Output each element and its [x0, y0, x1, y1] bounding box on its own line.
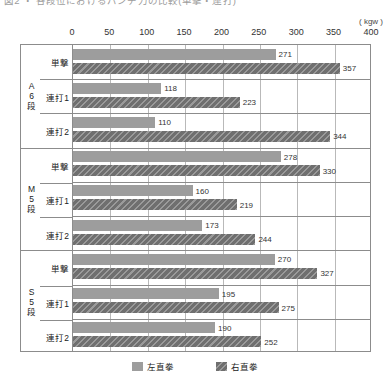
x-tick-400: 400: [363, 27, 378, 37]
group-row-labels: 単撃連打1連打2: [40, 45, 72, 148]
bar-right-2-1: [73, 302, 279, 313]
x-tick-300: 300: [289, 27, 304, 37]
x-tick-350: 350: [326, 27, 341, 37]
bar-value-right-2-1: 275: [282, 303, 295, 312]
x-tick-0: 0: [69, 27, 74, 37]
chart-legend: 左直拳右直拳: [0, 360, 389, 372]
bar-value-left-2-0: 270: [278, 255, 291, 264]
bar-left-2-1: [73, 288, 219, 299]
x-tick-200: 200: [214, 27, 229, 37]
bar-pair-1-2: 173244: [73, 216, 370, 250]
legend-swatch-right: [216, 362, 227, 371]
legend-item-right: 右直拳: [216, 360, 258, 372]
bar-value-left-0-2: 110: [158, 118, 171, 127]
bar-value-right-1-1: 219: [240, 200, 253, 209]
row-label-1-1: 連打1: [40, 183, 72, 217]
row-label-1-2: 連打2: [40, 217, 72, 251]
bar-left-0-0: [73, 49, 276, 60]
row-label-2-1: 連打1: [40, 286, 72, 320]
bar-right-0-1: [73, 97, 240, 108]
group-name-char: 5: [29, 297, 34, 307]
group-name-char: 6: [29, 91, 34, 101]
group-name-char: A: [29, 81, 35, 91]
bar-value-left-1-2: 173: [205, 221, 218, 230]
bar-pair-1-0: 278330: [73, 148, 370, 182]
group-row-labels: 単撃連打1連打2: [40, 149, 72, 251]
bar-value-left-2-1: 195: [222, 289, 235, 298]
legend-swatch-left: [132, 362, 143, 371]
row-label-2-0: 単撃: [40, 251, 72, 285]
bar-pair-2-1: 195275: [73, 285, 370, 319]
row-label-0-2: 連打2: [40, 113, 72, 147]
bar-value-left-1-1: 160: [196, 186, 209, 195]
group-block-2: S5段単撃連打1連打2: [21, 250, 72, 353]
bar-left-2-0: [73, 254, 275, 265]
group-name-char: 段: [27, 307, 36, 317]
bar-pair-2-2: 190252: [73, 319, 370, 353]
legend-label: 左直拳: [147, 360, 174, 372]
bar-value-left-2-2: 190: [218, 323, 231, 332]
bar-left-0-1: [73, 83, 161, 94]
bar-left-2-2: [73, 322, 215, 333]
bar-value-right-0-2: 344: [333, 132, 346, 141]
row-label-0-1: 連打1: [40, 79, 72, 113]
bar-pair-2-0: 270327: [73, 250, 370, 284]
bar-right-1-2: [73, 234, 255, 245]
bar-value-right-0-0: 357: [343, 64, 356, 73]
bar-right-2-2: [73, 336, 261, 347]
group-row-labels: 単撃連打1連打2: [40, 251, 72, 353]
row-label-0-0: 単撃: [40, 45, 72, 79]
legend-item-left: 左直拳: [132, 360, 174, 372]
bar-value-right-2-0: 327: [320, 269, 333, 278]
bar-value-left-1-0: 278: [284, 152, 297, 161]
bar-left-1-0: [73, 151, 281, 162]
axis-unit-label: ( kgw ): [359, 17, 383, 26]
bar-pair-0-0: 271357: [73, 45, 370, 79]
bar-value-left-0-1: 118: [164, 84, 177, 93]
row-label-1-0: 単撃: [40, 149, 72, 183]
bar-pair-0-1: 118223: [73, 79, 370, 113]
bar-right-1-0: [73, 165, 320, 176]
bar-right-0-0: [73, 63, 340, 74]
bar-left-1-2: [73, 220, 202, 231]
bar-value-left-0-0: 271: [279, 50, 292, 59]
group-name-char: 段: [27, 204, 36, 214]
group-name-label: A6段: [23, 45, 40, 148]
group-name-char: S: [29, 287, 35, 297]
group-name-label: M5段: [23, 149, 40, 251]
bar-pair-1-1: 160219: [73, 182, 370, 216]
legend-label: 右直拳: [231, 360, 258, 372]
x-tick-250: 250: [251, 27, 266, 37]
group-block-0: A6段単撃連打1連打2: [21, 45, 72, 148]
bar-right-0-2: [73, 131, 330, 142]
group-name-char: 5: [29, 194, 34, 204]
bar-pair-0-2: 110344: [73, 113, 370, 147]
bar-left-0-2: [73, 117, 155, 128]
group-name-char: M: [28, 184, 35, 194]
row-label-2-2: 連打2: [40, 320, 72, 354]
bar-value-right-0-1: 223: [243, 98, 256, 107]
x-tick-100: 100: [139, 27, 154, 37]
group-block-1: M5段単撃連打1連打2: [21, 148, 72, 251]
page-title: 図2 ・ 各段位におけるパンチ力の比較(単撃・連打): [4, 0, 385, 7]
bar-value-right-1-0: 330: [323, 166, 336, 175]
x-axis-tick-labels: 050100150200250300350400: [0, 27, 389, 41]
bar-right-2-0: [73, 268, 317, 279]
plot-area: 2713571182231103442783301602191732442703…: [72, 44, 371, 352]
bar-right-1-1: [73, 199, 237, 210]
group-name-label: S5段: [23, 251, 40, 353]
x-tick-150: 150: [177, 27, 192, 37]
x-tick-50: 50: [104, 27, 114, 37]
bar-value-right-1-2: 244: [258, 235, 271, 244]
category-label-column: A6段単撃連打1連打2M5段単撃連打1連打2S5段単撃連打1連打2: [20, 44, 72, 352]
bar-left-1-1: [73, 185, 193, 196]
group-name-char: 段: [27, 101, 36, 111]
bar-value-right-2-2: 252: [264, 337, 277, 346]
